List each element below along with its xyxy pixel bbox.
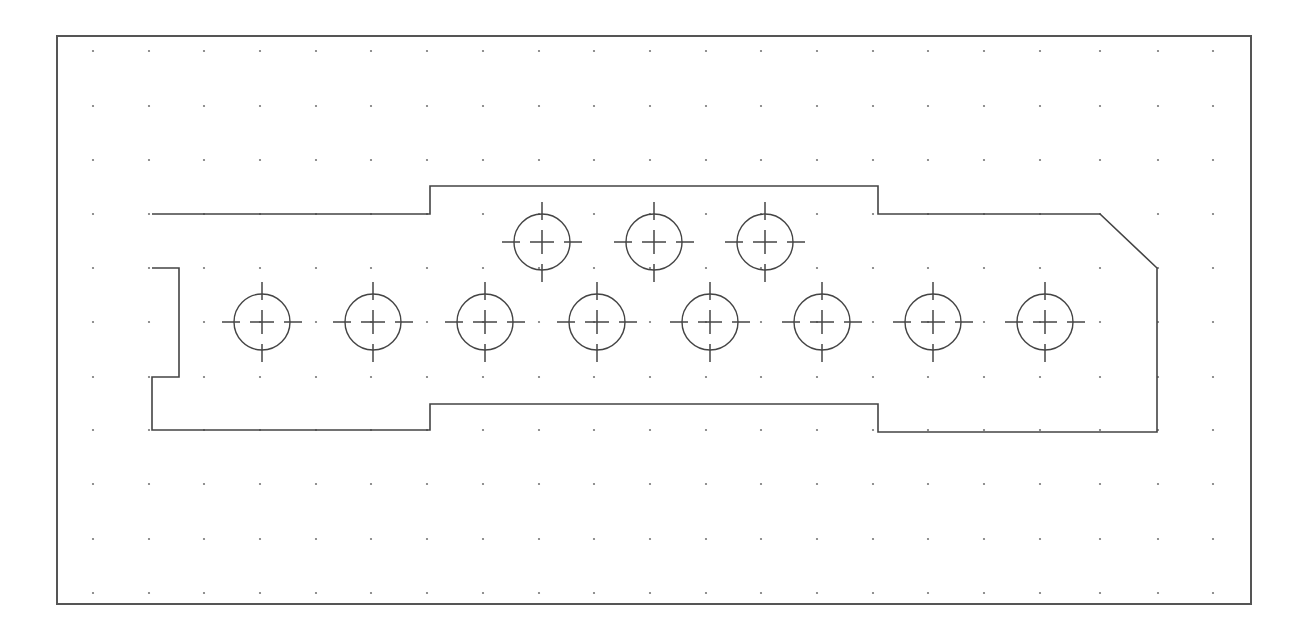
grid-dot (816, 376, 818, 378)
grid-dot (872, 483, 874, 485)
grid-dot (203, 376, 205, 378)
grid-dot (538, 321, 540, 323)
grid-dot (203, 50, 205, 52)
grid-dot (760, 50, 762, 52)
grid-dot (426, 592, 428, 594)
hole (1005, 282, 1085, 362)
hole (333, 282, 413, 362)
grid-dot (1099, 376, 1101, 378)
grid-dot (148, 50, 150, 52)
grid-dot (370, 592, 372, 594)
grid-dot (203, 483, 205, 485)
grid-dot (872, 50, 874, 52)
grid-dot (370, 105, 372, 107)
grid-dot (1039, 538, 1041, 540)
grid-dot (816, 429, 818, 431)
grid-dot (816, 50, 818, 52)
grid-dot (872, 592, 874, 594)
grid-dot (92, 159, 94, 161)
grid-dot (760, 105, 762, 107)
grid-dot (1157, 592, 1159, 594)
grid-dot (538, 159, 540, 161)
grid-dot (593, 592, 595, 594)
grid-dot (649, 267, 651, 269)
grid-dot (92, 376, 94, 378)
grid-dot (760, 483, 762, 485)
grid-dot (593, 538, 595, 540)
grid-dot (259, 50, 261, 52)
grid-dot (148, 483, 150, 485)
grid-dot (92, 483, 94, 485)
grid-dot (649, 429, 651, 431)
hole-pattern (222, 202, 1085, 362)
grid-dot (482, 159, 484, 161)
grid-dot (482, 592, 484, 594)
grid-dot (1039, 429, 1041, 431)
grid-dot (426, 159, 428, 161)
grid-dot (92, 105, 94, 107)
grid-dot (1039, 592, 1041, 594)
drawing-frame (57, 36, 1251, 604)
grid-dot (92, 429, 94, 431)
grid-dot (1039, 105, 1041, 107)
grid-dot (1157, 538, 1159, 540)
grid-dot (872, 429, 874, 431)
grid-dot (148, 105, 150, 107)
grid-dot (816, 159, 818, 161)
grid-dot (1212, 267, 1214, 269)
grid-dot (927, 429, 929, 431)
grid-dot (92, 213, 94, 215)
grid-dot (1212, 159, 1214, 161)
grid-dot (593, 50, 595, 52)
grid-dot (816, 592, 818, 594)
grid-dot (705, 429, 707, 431)
grid-dot (315, 105, 317, 107)
grid-dot (649, 592, 651, 594)
grid-dot (370, 376, 372, 378)
part-outline (152, 186, 1157, 432)
grid-dot (593, 213, 595, 215)
grid-dot (426, 267, 428, 269)
grid-dot (760, 429, 762, 431)
grid-dot (593, 483, 595, 485)
grid-dot (1039, 267, 1041, 269)
grid-dot (983, 376, 985, 378)
grid-dot (872, 267, 874, 269)
hole (782, 282, 862, 362)
grid-dot (538, 429, 540, 431)
grid-dot (1157, 483, 1159, 485)
grid-dot (482, 267, 484, 269)
hole (670, 282, 750, 362)
grid-dot (148, 538, 150, 540)
grid-dot (203, 321, 205, 323)
grid-dot (1099, 267, 1101, 269)
grid-dot (649, 483, 651, 485)
grid-dot (649, 321, 651, 323)
grid-dot (92, 538, 94, 540)
grid-dot (705, 592, 707, 594)
grid-dot (426, 50, 428, 52)
grid-dot (1099, 105, 1101, 107)
grid-dot (872, 538, 874, 540)
hole (445, 282, 525, 362)
grid-dot (1212, 483, 1214, 485)
grid-dot (1099, 429, 1101, 431)
grid-dot (649, 376, 651, 378)
grid-dot (816, 213, 818, 215)
grid-dot (482, 50, 484, 52)
grid-dot (649, 50, 651, 52)
grid-dot (315, 376, 317, 378)
grid-dot (1212, 105, 1214, 107)
grid-dot (92, 592, 94, 594)
grid-dot (1157, 159, 1159, 161)
grid-dot (983, 592, 985, 594)
grid-dot (315, 50, 317, 52)
grid-dot (705, 538, 707, 540)
grid-dot (816, 267, 818, 269)
grid-dot (259, 483, 261, 485)
grid-dot (705, 376, 707, 378)
grid-dot (259, 105, 261, 107)
grid-dot (983, 50, 985, 52)
grid-dot (705, 159, 707, 161)
grid-dot (872, 321, 874, 323)
